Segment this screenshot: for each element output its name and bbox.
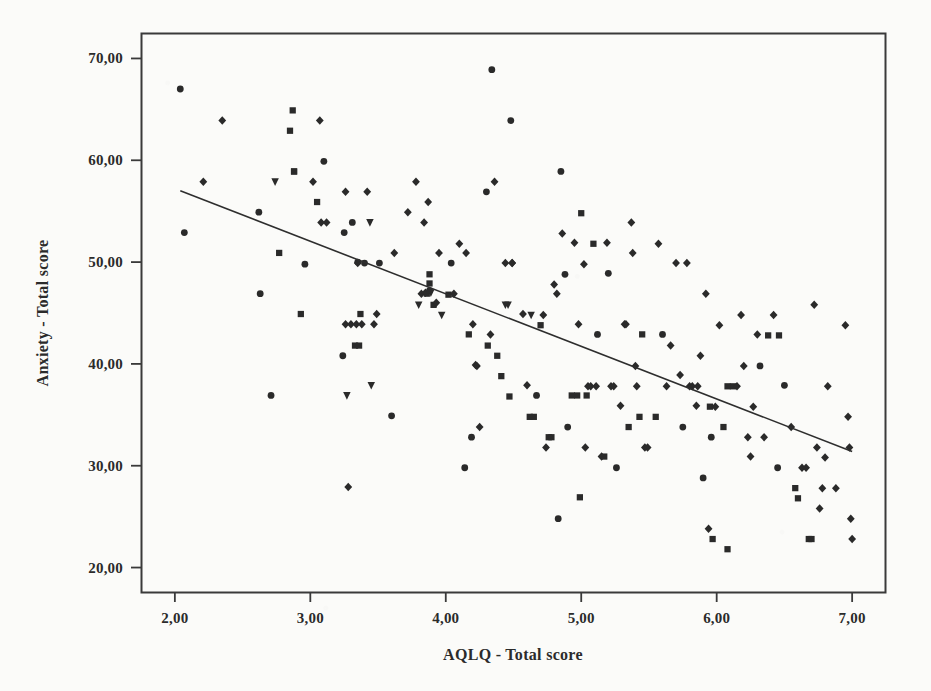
data-point-diamond (683, 259, 691, 268)
data-point-circle (774, 464, 781, 471)
data-point-diamond (705, 525, 713, 534)
data-point-diamond (694, 382, 702, 391)
x-tick-label: 2,00 (161, 610, 188, 626)
data-point-diamond (816, 504, 824, 513)
data-point-diamond (523, 381, 531, 390)
data-point-circle (483, 188, 490, 195)
data-point-diamond (629, 249, 637, 258)
data-point-diamond (702, 289, 710, 298)
data-point-square (298, 311, 304, 317)
data-point-diamond (316, 116, 324, 125)
scatter-plot-figure: 2,003,004,005,006,007,00 20,0030,0040,00… (0, 0, 931, 691)
data-point-diamond (818, 484, 826, 493)
y-axis-tick-labels: 20,0030,0040,0050,0060,0070,00 (88, 50, 123, 575)
data-point-diamond (760, 433, 768, 442)
data-point-circle (659, 331, 666, 338)
data-point-circle (613, 464, 620, 471)
data-point-square (795, 495, 801, 501)
regression-fit-line (180, 191, 852, 452)
data-point-diamond (358, 320, 366, 329)
data-point-diamond (592, 382, 600, 391)
data-point-diamond (697, 352, 705, 361)
data-point-square (626, 424, 632, 430)
data-point-circle (255, 209, 262, 216)
data-point-diamond (199, 177, 207, 186)
data-point-circle (700, 475, 707, 482)
data-point-circle (448, 260, 455, 267)
data-point-circle (558, 168, 565, 175)
data-point-circle (257, 290, 264, 297)
data-point-diamond (633, 382, 641, 391)
data-point-circle (564, 424, 571, 431)
data-point-diamond (581, 443, 589, 452)
data-point-square (426, 271, 432, 277)
data-point-diamond (580, 260, 588, 269)
data-point-triangle (527, 312, 534, 320)
data-point-square (636, 414, 642, 420)
data-point-circle (181, 229, 188, 236)
data-point-diamond (747, 452, 755, 461)
data-point-circle (708, 434, 715, 441)
y-tick-label: 70,00 (88, 50, 123, 66)
data-point-diamond (844, 413, 852, 422)
data-point-diamond (323, 218, 331, 227)
data-point-diamond (847, 514, 855, 523)
data-point-diamond (553, 289, 561, 298)
data-point-diamond (373, 310, 381, 319)
data-point-diamond (342, 188, 350, 197)
data-point-diamond (832, 484, 840, 493)
x-tick-label: 4,00 (432, 610, 459, 626)
data-point-circle (302, 261, 309, 268)
data-point-diamond (824, 382, 832, 391)
data-point-circle (339, 352, 346, 359)
data-point-diamond (655, 240, 663, 249)
data-point-diamond (501, 259, 509, 268)
data-point-circle (757, 363, 764, 370)
data-point-diamond (810, 301, 818, 310)
y-axis-title: Anxiety - Total score (34, 240, 52, 387)
data-point-square (720, 424, 726, 430)
data-point-circle (605, 270, 612, 277)
data-point-diamond (542, 443, 550, 452)
x-axis-tick-labels: 2,003,004,005,006,007,00 (161, 610, 865, 626)
data-point-diamond (420, 218, 428, 227)
y-tick-label: 60,00 (88, 152, 123, 168)
data-point-diamond (753, 330, 761, 339)
data-point-square (569, 392, 575, 398)
data-point-square (287, 128, 293, 134)
data-point-diamond (813, 443, 821, 452)
data-point-circle (594, 331, 601, 338)
data-point-circle (533, 392, 540, 399)
data-point-circle (781, 382, 788, 389)
data-point-square (590, 241, 596, 247)
data-point-square (724, 546, 730, 552)
data-point-square (357, 311, 363, 317)
data-point-square (578, 210, 584, 216)
data-point-diamond (667, 341, 675, 350)
data-point-circle (562, 271, 569, 278)
data-point-circle (268, 392, 275, 399)
y-tick-label: 50,00 (88, 254, 123, 270)
y-tick-label: 40,00 (88, 356, 123, 372)
data-point-diamond (469, 320, 477, 329)
data-point-square (537, 322, 543, 328)
data-point-square (709, 536, 715, 542)
data-point-diamond (617, 401, 625, 410)
data-point-diamond (558, 229, 566, 238)
data-point-circle (555, 515, 562, 522)
data-point-square (485, 342, 491, 348)
data-point-diamond (412, 177, 420, 186)
data-point-diamond (692, 401, 700, 410)
data-point-circle (468, 434, 475, 441)
data-point-circle (177, 86, 184, 93)
data-point-circle (461, 464, 468, 471)
x-axis-ticks (175, 593, 852, 602)
data-point-diamond (462, 249, 470, 258)
data-point-diamond (455, 240, 463, 249)
data-point-diamond (424, 198, 432, 207)
data-point-diamond (715, 321, 723, 330)
data-point-diamond (770, 311, 778, 320)
data-point-square (808, 536, 814, 542)
data-point-circle (388, 412, 395, 419)
data-point-triangle (366, 219, 373, 227)
